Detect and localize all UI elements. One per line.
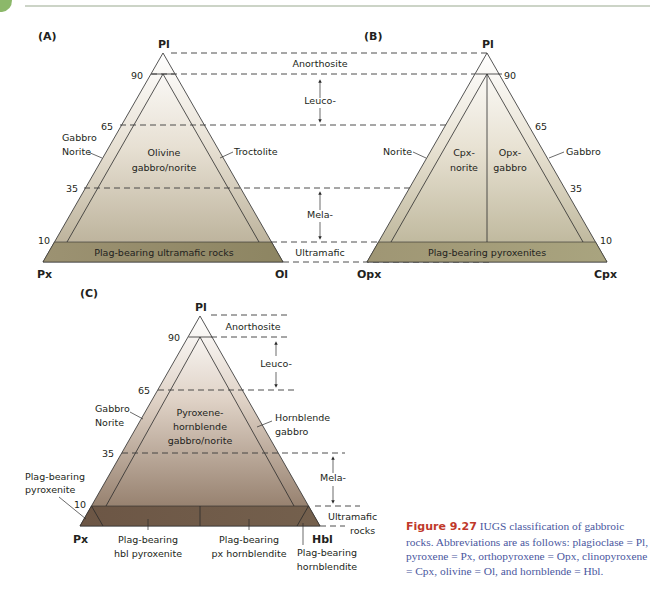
apex-opx: Opx xyxy=(357,268,381,281)
tick-65: 65 xyxy=(535,121,547,132)
apex-ol: Ol xyxy=(275,268,288,281)
apex-pl: Pl xyxy=(482,38,494,51)
field-olivine: Olivine xyxy=(148,147,181,158)
field-hornblendite: hornblendite xyxy=(297,561,358,572)
field-pyroxene: Pyroxene- xyxy=(176,407,223,418)
figure-number: Figure 9.27 xyxy=(406,520,477,533)
apex-px: Px xyxy=(37,268,52,281)
tick-90: 90 xyxy=(131,70,143,81)
field-norite: Norite xyxy=(95,417,124,428)
range-ultramafic: Ultramafic xyxy=(328,511,377,522)
tick-90: 90 xyxy=(504,70,516,81)
apex-hbl: Hbl xyxy=(312,533,333,546)
chapter-tab-accent xyxy=(0,0,12,12)
apex-px: Px xyxy=(73,533,88,546)
apex-cpx: Cpx xyxy=(594,268,617,281)
range-leuco: Leuco- xyxy=(304,95,336,106)
figure-caption: Figure 9.27 IUGS classification of gabbr… xyxy=(406,519,650,578)
field-gabbro-norite: gabbro/norite xyxy=(132,162,197,173)
panel-c-diagram: (C) 90 65 35 10 Pl Px Hbl Anorthosite Le… xyxy=(25,287,377,572)
field-gabbro-norite: gabbro/norite xyxy=(168,435,233,446)
apex-pl: Pl xyxy=(158,38,170,51)
tick-65: 65 xyxy=(101,121,113,132)
tick-10: 10 xyxy=(38,235,50,246)
field-norite: Norite xyxy=(383,146,412,157)
apex-pl: Pl xyxy=(195,301,207,314)
ab-range-labels: Anorthosite Leuco- Mela- Ultramafic xyxy=(293,58,348,258)
tick-35: 35 xyxy=(570,183,582,194)
field-gabbro: Gabbro xyxy=(95,403,130,414)
panel-a-label: (A) xyxy=(38,30,57,43)
range-ultramafic-rocks: rocks xyxy=(350,525,375,536)
field-norite: Norite xyxy=(62,146,91,157)
field-cpx: Cpx- xyxy=(453,147,475,158)
page-header xyxy=(0,0,650,12)
field-px-hornblendite: px hornblendite xyxy=(211,548,286,559)
range-mela: Mela- xyxy=(320,472,346,483)
figure-body: Abbreviations are as follows: plagioclas… xyxy=(406,536,648,577)
tick-10: 10 xyxy=(74,499,86,510)
field-hornblende-gabbro: Hornblende xyxy=(275,412,330,423)
range-anorthosite: Anorthosite xyxy=(293,58,348,69)
field-plag-bearing-hornblendite: Plag-bearing xyxy=(297,547,357,558)
field-plag-bearing-pyroxenites: Plag-bearing pyroxenites xyxy=(428,247,546,258)
field-gabbro-2: gabbro xyxy=(275,426,309,437)
gabbroic-classification-figure: (A) 90 65 35 10 Pl Px Ol Olivine gabbro/… xyxy=(0,0,650,598)
panel-b-diagram: (B) 90 65 35 10 Pl Opx Cpx Cpx- norite O… xyxy=(357,30,617,281)
field-gabbro: Gabbro xyxy=(566,146,601,157)
field-plag-bearing-px: Plag-bearing xyxy=(219,534,279,545)
tick-65: 65 xyxy=(138,385,150,396)
field-gabbro: Gabbro xyxy=(62,132,97,143)
range-mela: Mela- xyxy=(307,209,333,220)
field-plag-bearing-ultramafic: Plag-bearing ultramafic rocks xyxy=(94,247,234,258)
field-cpx-norite: norite xyxy=(450,162,478,173)
tick-35: 35 xyxy=(66,183,78,194)
field-troctolite: Troctolite xyxy=(233,146,278,157)
field-opx: Opx- xyxy=(499,147,522,158)
range-leuco: Leuco- xyxy=(260,358,292,369)
tick-90: 90 xyxy=(168,332,180,343)
tick-35: 35 xyxy=(102,448,114,459)
field-plag-bearing-pyroxenite: Plag-bearing xyxy=(25,471,85,482)
field-opx-gabbro: gabbro xyxy=(493,162,527,173)
panel-b-label: (B) xyxy=(364,30,382,43)
field-plag-bearing-hbl: Plag-bearing xyxy=(118,534,178,545)
range-ultramafic: Ultramafic xyxy=(295,247,344,258)
panel-c-label: (C) xyxy=(80,287,98,300)
range-anorthosite: Anorthosite xyxy=(226,321,281,332)
field-hbl-pyroxenite: hbl pyroxenite xyxy=(114,548,182,559)
field-pyroxenite: pyroxenite xyxy=(25,484,75,495)
field-hornblende: hornblende xyxy=(173,421,227,432)
tick-10: 10 xyxy=(600,235,612,246)
